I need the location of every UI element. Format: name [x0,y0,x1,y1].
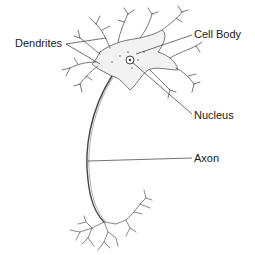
label-dendrites: Dendrites [15,38,62,49]
axon-leader [88,158,192,161]
dendrites-leader-1 [66,38,106,44]
label-cell-body: Cell Body [194,29,241,40]
label-nucleus: Nucleus [194,110,234,121]
neuron-diagram: Dendrites Cell Body Nucleus Axon [0,0,255,255]
nucleus-leader [132,62,192,114]
axon-terminals [70,222,104,246]
label-axon: Axon [194,153,219,164]
axon-shape [87,76,112,222]
cell-body-shape [92,30,178,90]
dendrites-leader-2 [66,44,100,64]
